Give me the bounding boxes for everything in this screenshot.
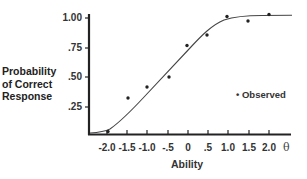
legend-observed: • Observed xyxy=(236,89,286,100)
theta-symbol: θ xyxy=(283,141,290,154)
x-axis-label: Ability xyxy=(171,158,203,170)
observed-points xyxy=(106,13,270,133)
icc-curve xyxy=(90,15,292,133)
x-tick-label: 2.0 xyxy=(257,142,281,153)
